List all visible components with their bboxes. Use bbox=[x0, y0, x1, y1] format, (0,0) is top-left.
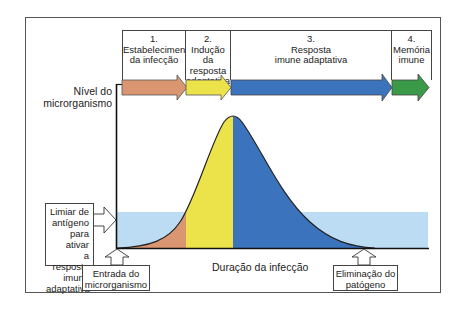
entry-line2: microrganismo bbox=[83, 279, 149, 290]
elimination-pointer-arrow bbox=[352, 249, 376, 265]
entry-label-box: Entrada do microrganismo bbox=[82, 265, 150, 291]
phase-1-arrow bbox=[122, 75, 187, 100]
elimination-label-box: Eliminação do patógeno bbox=[333, 265, 398, 291]
phase-2-arrow bbox=[186, 75, 231, 100]
phase-4-arrow bbox=[392, 74, 429, 101]
elimination-line2: patógeno bbox=[334, 279, 397, 290]
phase-3-arrow bbox=[231, 74, 392, 101]
threshold-pointer-arrow bbox=[93, 207, 116, 233]
entry-pointer-arrow bbox=[105, 249, 129, 265]
y-axis-label-line2: microrganismo bbox=[34, 97, 112, 109]
threshold-label-box: Limiar de antígeno para ativar a respost… bbox=[45, 203, 94, 266]
entry-line1: Entrada do bbox=[83, 268, 149, 279]
elimination-line1: Eliminação do bbox=[334, 268, 397, 279]
y-axis-label-line1: Nível do bbox=[34, 85, 112, 97]
x-axis-label: Duração da infecção bbox=[212, 261, 308, 273]
y-axis-label: Nível do microrganismo bbox=[34, 85, 112, 109]
threshold-line3: para ativar bbox=[46, 228, 89, 250]
threshold-line1: Limiar de bbox=[46, 206, 89, 217]
threshold-line2: antígeno bbox=[46, 217, 89, 228]
